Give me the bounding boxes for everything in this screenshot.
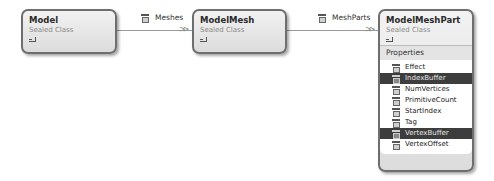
association-label-text: MeshParts bbox=[332, 13, 370, 22]
property-icon bbox=[392, 97, 400, 104]
class-name: Model bbox=[29, 15, 115, 25]
class-box-model[interactable]: Model Sealed Class bbox=[21, 9, 117, 54]
class-stereotype: Sealed Class bbox=[200, 26, 285, 35]
property-icon bbox=[392, 86, 400, 93]
property-name: VertexBuffer bbox=[405, 128, 449, 139]
property-primitivecount[interactable]: PrimitiveCount bbox=[380, 95, 472, 106]
property-icon bbox=[392, 108, 400, 115]
class-name: ModelMesh bbox=[200, 15, 285, 25]
property-indexbuffer[interactable]: IndexBuffer bbox=[380, 73, 472, 84]
property-vertexoffset[interactable]: VertexOffset bbox=[380, 139, 472, 150]
association-arrow-meshparts: >> bbox=[365, 26, 372, 34]
association-label-text: Meshes bbox=[155, 13, 183, 22]
property-numvertices[interactable]: NumVertices bbox=[380, 84, 472, 95]
class-box-modelmeshpart[interactable]: ModelMeshPart Sealed Class Properties Ef… bbox=[378, 9, 474, 172]
property-icon bbox=[141, 14, 149, 21]
property-icon bbox=[392, 64, 400, 71]
property-tag[interactable]: Tag bbox=[380, 117, 472, 128]
section-header-properties[interactable]: Properties bbox=[380, 45, 472, 60]
property-name: PrimitiveCount bbox=[405, 95, 457, 106]
expand-toggle-icon[interactable] bbox=[200, 37, 208, 42]
property-effect[interactable]: Effect bbox=[380, 62, 472, 73]
association-arrow-meshes: >> bbox=[179, 26, 186, 34]
property-name: VertexOffset bbox=[405, 139, 449, 150]
class-stereotype: Sealed Class bbox=[386, 26, 472, 35]
association-label-meshparts[interactable]: MeshParts bbox=[318, 13, 370, 22]
property-icon bbox=[392, 119, 400, 126]
class-name: ModelMeshPart bbox=[386, 15, 472, 25]
property-icon bbox=[392, 130, 400, 137]
property-icon bbox=[392, 141, 400, 148]
property-name: StartIndex bbox=[405, 106, 441, 117]
property-vertexbuffer[interactable]: VertexBuffer bbox=[380, 128, 472, 139]
property-name: NumVertices bbox=[405, 84, 449, 95]
collapse-toggle-icon[interactable] bbox=[386, 37, 394, 42]
class-box-modelmesh[interactable]: ModelMesh Sealed Class bbox=[192, 9, 287, 54]
class-stereotype: Sealed Class bbox=[29, 26, 115, 35]
property-icon bbox=[318, 14, 326, 21]
property-name: IndexBuffer bbox=[405, 73, 446, 84]
property-name: Tag bbox=[405, 117, 417, 128]
property-icon bbox=[392, 75, 400, 82]
expand-toggle-icon[interactable] bbox=[29, 37, 37, 42]
properties-list: Effect IndexBuffer NumVertices Primitive… bbox=[380, 60, 472, 154]
property-startindex[interactable]: StartIndex bbox=[380, 106, 472, 117]
property-name: Effect bbox=[405, 62, 425, 73]
association-label-meshes[interactable]: Meshes bbox=[141, 13, 183, 22]
